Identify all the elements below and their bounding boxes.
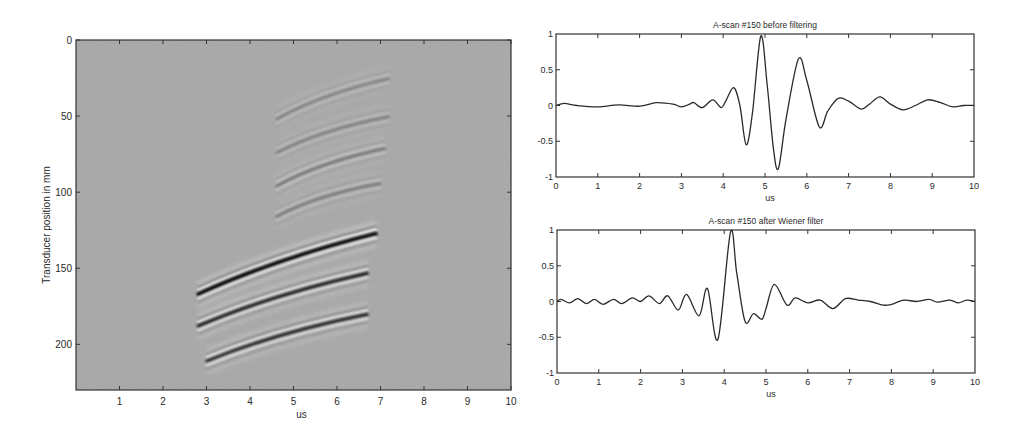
x-tick-label: 1 [117, 396, 123, 407]
y-tick-label: 200 [55, 339, 72, 350]
plot-title: A-scan #150 after Wiener filter [709, 216, 824, 226]
y-tick-label: -0.5 [538, 332, 554, 342]
x-tick-label: 2 [160, 396, 166, 407]
x-tick-label: 4 [721, 181, 726, 191]
x-tick-label: 2 [638, 377, 643, 387]
y-tick-label: 100 [55, 187, 72, 198]
plot-title: A-scan #150 before filtering [713, 20, 817, 30]
x-tick-label: 3 [680, 377, 685, 387]
x-tick-label: 5 [763, 377, 768, 387]
x-axis-label: us [766, 389, 776, 399]
x-tick-label: 7 [846, 181, 851, 191]
x-tick-label: 8 [421, 396, 427, 407]
y-tick-label: 0 [66, 35, 72, 46]
x-tick-label: 9 [930, 181, 935, 191]
y-tick-label: -1 [546, 368, 554, 378]
y-axis-label: Transducer position in mm [41, 166, 52, 283]
x-tick-label: 5 [762, 181, 767, 191]
x-tick-label: 6 [804, 181, 809, 191]
figure: 12345678910050100150200usTransducer posi… [0, 0, 1020, 432]
x-tick-label: 1 [595, 181, 600, 191]
y-tick-label: 1 [549, 225, 554, 235]
x-tick-label: 2 [637, 181, 642, 191]
y-tick-label: 0 [548, 101, 553, 111]
x-tick-label: 3 [204, 396, 210, 407]
x-tick-label: 6 [805, 377, 810, 387]
ascan-after-plot: A-scan #150 after Wiener filter012345678… [538, 216, 980, 399]
x-tick-label: 8 [888, 181, 893, 191]
y-tick-label: 150 [55, 263, 72, 274]
y-tick-label: 50 [61, 111, 73, 122]
x-tick-label: 4 [247, 396, 253, 407]
x-tick-label: 10 [505, 396, 517, 407]
x-tick-label: 1 [596, 377, 601, 387]
x-tick-label: 10 [970, 377, 980, 387]
y-tick-label: 1 [548, 29, 553, 39]
x-tick-label: 9 [465, 396, 471, 407]
x-tick-label: 8 [889, 377, 894, 387]
x-tick-label: 5 [291, 396, 297, 407]
y-tick-label: -0.5 [537, 136, 553, 146]
x-tick-label: 9 [931, 377, 936, 387]
x-axis-label: us [765, 193, 775, 203]
x-tick-label: 0 [553, 181, 558, 191]
x-tick-label: 3 [679, 181, 684, 191]
x-tick-label: 6 [334, 396, 340, 407]
y-tick-label: 0.5 [540, 65, 553, 75]
x-tick-label: 4 [722, 377, 727, 387]
x-tick-label: 7 [378, 396, 384, 407]
x-tick-label: 10 [969, 181, 979, 191]
x-axis-label: us [296, 409, 307, 420]
ascan-before-plot: A-scan #150 before filtering012345678910… [537, 20, 979, 203]
y-tick-label: -1 [545, 172, 553, 182]
x-tick-label: 0 [554, 377, 559, 387]
bscan-plot: 12345678910050100150200usTransducer posi… [41, 35, 517, 420]
x-tick-label: 7 [847, 377, 852, 387]
y-tick-label: 0 [549, 297, 554, 307]
y-tick-label: 0.5 [541, 261, 554, 271]
